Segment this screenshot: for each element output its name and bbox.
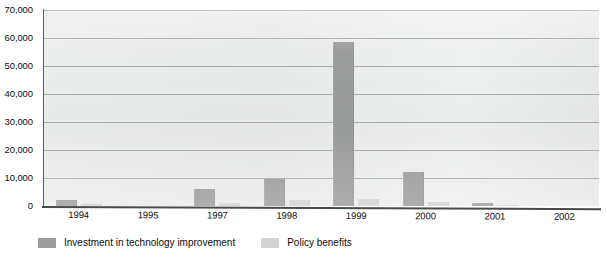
bar	[428, 202, 449, 206]
y-axis-tick-label: 40,000	[0, 89, 33, 99]
y-axis-tick-label: 50,000	[0, 61, 33, 71]
bar-chart-figure: 010,00020,00030,00040,00050,00060,00070,…	[0, 0, 607, 262]
legend-entry: Policy benefits	[261, 237, 351, 248]
legend-label: Policy benefits	[287, 237, 351, 248]
legend-entry: Investment in technology improvement	[38, 237, 235, 248]
y-axis-tick-label: 20,000	[0, 145, 33, 155]
bar	[194, 189, 215, 206]
x-axis-tick-label: 2001	[460, 209, 529, 227]
legend-swatch	[261, 238, 279, 248]
bar-groups	[44, 10, 599, 206]
x-axis-tick-label: 1997	[183, 208, 252, 226]
plot-frame: 010,00020,00030,00040,00050,00060,00070,…	[44, 10, 599, 206]
x-axis-tick-label: 1995	[113, 208, 182, 226]
chart-legend: Investment in technology improvementPoli…	[38, 237, 352, 248]
bar	[219, 203, 240, 206]
bar	[289, 200, 310, 206]
bar	[497, 205, 518, 206]
bar-group	[252, 10, 321, 206]
x-axis-tick-label: 1994	[44, 208, 113, 226]
y-axis-tick-label: 10,000	[0, 173, 33, 183]
bar-group	[322, 10, 391, 206]
x-axis-tick-label: 1998	[252, 209, 321, 227]
legend-swatch	[38, 238, 56, 248]
bar-group	[44, 10, 113, 206]
x-axis-tick-labels: 19941995199719981999200020012002	[44, 208, 599, 228]
y-axis-tick-label: 30,000	[0, 117, 33, 127]
x-axis-tick-label: 2002	[530, 210, 599, 228]
bar	[472, 203, 493, 206]
x-axis-tick-label: 2000	[391, 209, 460, 227]
y-axis-tick-label: 0	[0, 201, 33, 211]
bar-group	[113, 10, 182, 206]
y-axis-tick-label: 60,000	[0, 33, 33, 43]
bar-group	[460, 10, 529, 206]
x-axis-tick-label: 1999	[321, 209, 390, 227]
bar	[264, 179, 285, 206]
bar-group	[530, 10, 599, 206]
y-axis-line	[43, 9, 44, 207]
bar	[403, 172, 424, 206]
bar-group	[391, 10, 460, 206]
y-axis-tick-label: 70,000	[0, 5, 33, 15]
bar	[358, 199, 379, 206]
legend-label: Investment in technology improvement	[64, 237, 235, 248]
bar-group	[183, 10, 252, 206]
bar	[333, 42, 354, 206]
